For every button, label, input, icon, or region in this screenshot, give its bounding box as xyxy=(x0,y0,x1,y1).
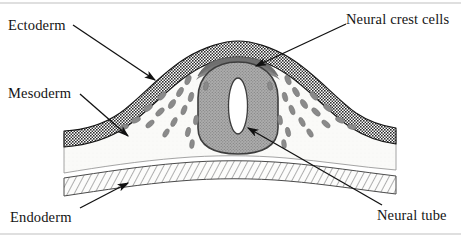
figure-canvas: Ectoderm Mesoderm Endoderm Neural crest … xyxy=(0,0,461,237)
label-mesoderm: Mesoderm xyxy=(8,85,71,102)
label-neural-crest-cells: Neural crest cells xyxy=(346,11,449,28)
label-ectoderm: Ectoderm xyxy=(8,17,66,34)
label-neural-tube: Neural tube xyxy=(377,207,447,224)
ectoderm-leader xyxy=(73,25,155,80)
neural-tube-group xyxy=(198,62,278,154)
neurulation-diagram xyxy=(0,0,461,237)
neural-tube-lumen xyxy=(229,78,248,134)
label-endoderm: Endoderm xyxy=(10,209,72,226)
crest-leader xyxy=(256,24,346,66)
